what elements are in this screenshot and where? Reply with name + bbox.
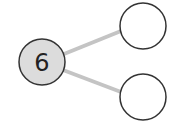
connector-top xyxy=(64,31,121,54)
number-bond-diagram: 6 xyxy=(0,0,174,128)
part-circle-top[interactable] xyxy=(120,3,166,49)
part-circle-bottom[interactable] xyxy=(120,74,166,120)
whole-circle: 6 xyxy=(19,39,65,85)
whole-value: 6 xyxy=(34,49,49,77)
connector-bottom xyxy=(63,70,121,92)
